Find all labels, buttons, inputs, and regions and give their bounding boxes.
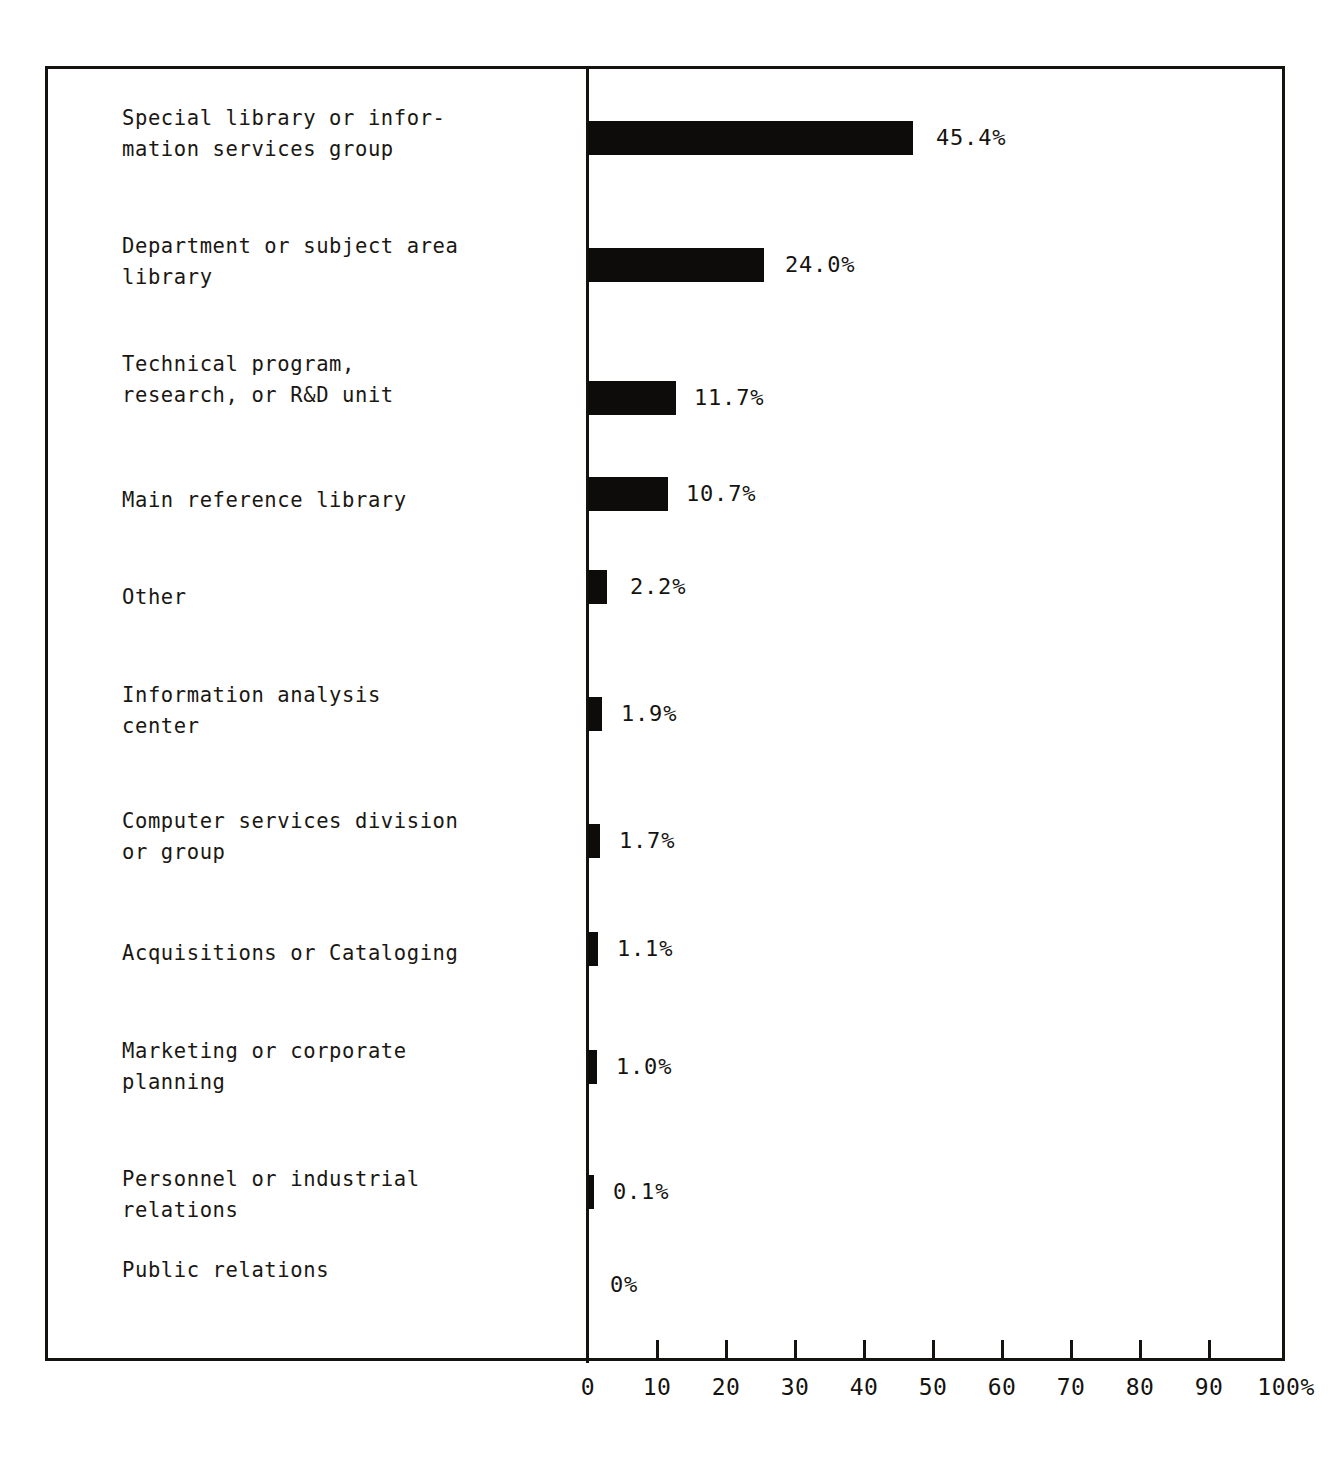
- x-tick: [932, 1340, 935, 1358]
- x-tick: [1070, 1340, 1073, 1358]
- x-axis-line: [45, 1358, 1285, 1361]
- x-tick-label-40: 40: [850, 1372, 879, 1402]
- bar-value-label: 1.0%: [616, 1050, 672, 1084]
- bar-value-label: 1.7%: [619, 824, 675, 858]
- x-tick-label-100: 100%: [1257, 1372, 1314, 1402]
- category-label: Other: [122, 582, 572, 613]
- x-tick-label-90: 90: [1195, 1372, 1224, 1402]
- bar-value-label: 1.9%: [621, 697, 677, 731]
- bar: [588, 248, 764, 282]
- bar: [588, 121, 913, 155]
- x-tick-label-70: 70: [1057, 1372, 1086, 1402]
- x-tick-label-60: 60: [988, 1372, 1017, 1402]
- category-label: Computer services division or group: [122, 806, 572, 868]
- x-tick: [656, 1340, 659, 1358]
- category-label: Technical program, research, or R&D unit: [122, 349, 572, 411]
- x-tick-label-0: 0: [581, 1372, 595, 1402]
- x-tick: [794, 1340, 797, 1358]
- bar: [588, 1175, 594, 1209]
- category-label: Public relations: [122, 1255, 572, 1286]
- bar: [588, 697, 602, 731]
- horizontal-bar-chart: Special library or infor- mation service…: [0, 0, 1343, 1466]
- bar-value-label: 11.7%: [694, 381, 764, 415]
- bar-value-label: 24.0%: [785, 248, 855, 282]
- category-label: Special library or infor- mation service…: [122, 103, 572, 165]
- bar-value-label: 10.7%: [686, 477, 756, 511]
- bar: [588, 570, 607, 604]
- x-tick: [1208, 1340, 1211, 1358]
- x-tick: [1139, 1340, 1142, 1358]
- bar-value-label: 0.1%: [613, 1175, 669, 1209]
- chart-rows: Special library or infor- mation service…: [0, 0, 1343, 1466]
- category-label: Main reference library: [122, 485, 572, 516]
- x-tick: [1001, 1340, 1004, 1358]
- bar: [588, 824, 600, 858]
- bar: [588, 932, 598, 966]
- x-tick: [863, 1340, 866, 1358]
- bar: [588, 381, 676, 415]
- x-tick-label-10: 10: [643, 1372, 672, 1402]
- bar-value-label: 0%: [610, 1268, 638, 1302]
- x-tick-label-50: 50: [919, 1372, 948, 1402]
- bar-value-label: 2.2%: [630, 570, 686, 604]
- category-label: Acquisitions or Cataloging: [122, 938, 572, 969]
- bar: [588, 1050, 597, 1084]
- category-label: Information analysis center: [122, 680, 572, 742]
- bar: [588, 477, 668, 511]
- category-label: Personnel or industrial relations: [122, 1164, 572, 1226]
- category-label: Department or subject area library: [122, 231, 572, 293]
- x-tick: [725, 1340, 728, 1358]
- bar-value-label: 45.4%: [936, 121, 1006, 155]
- x-tick-label-30: 30: [781, 1372, 810, 1402]
- bar-value-label: 1.1%: [617, 932, 673, 966]
- x-tick-label-80: 80: [1126, 1372, 1155, 1402]
- x-tick-label-20: 20: [712, 1372, 741, 1402]
- category-label: Marketing or corporate planning: [122, 1036, 572, 1098]
